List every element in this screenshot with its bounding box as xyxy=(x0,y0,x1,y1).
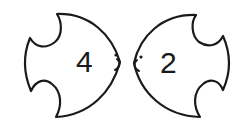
right-fish-eye-icon xyxy=(139,55,142,58)
fish-diagram: 4 2 xyxy=(0,0,240,123)
left-fish-number: 4 xyxy=(76,45,93,78)
left-fish: 4 xyxy=(25,14,120,117)
right-fish-body xyxy=(134,15,229,117)
left-fish-eye-icon xyxy=(114,53,117,56)
left-fish-body xyxy=(25,14,120,117)
right-fish-number: 2 xyxy=(160,46,177,79)
right-fish: 2 xyxy=(134,15,229,117)
